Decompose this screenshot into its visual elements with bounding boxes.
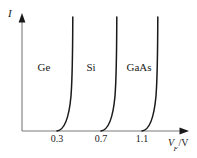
curve-ge — [57, 17, 73, 131]
xtick-label-2: 1.1 — [136, 134, 149, 144]
y-axis-label: I — [8, 8, 12, 19]
curve-label-ge: Ge — [38, 62, 51, 73]
xtick-label-1: 0.7 — [95, 134, 108, 144]
curve-label-si: Si — [86, 62, 95, 73]
x-axis-label-unit: /V — [178, 137, 188, 148]
diode-iv-characteristic-figure: I VF/V 0.3 0.7 1.1 Ge Si GaAs — [0, 0, 197, 158]
x-axis-label: VF/V — [168, 138, 188, 151]
curve-label-gaas: GaAs — [126, 62, 151, 73]
x-axis-arrowhead — [180, 128, 190, 135]
curve-gaas — [142, 17, 158, 131]
curve-si — [101, 17, 117, 131]
xtick-label-0: 0.3 — [51, 134, 64, 144]
x-axis-label-subscript: F — [174, 145, 178, 153]
y-axis-arrowhead — [19, 13, 26, 23]
